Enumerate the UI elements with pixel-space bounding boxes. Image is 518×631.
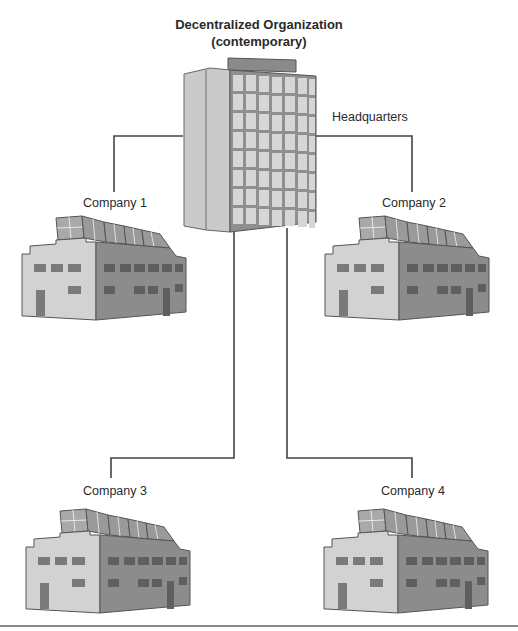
- bottom-divider: [0, 625, 518, 627]
- connector-hq-company1: [114, 136, 183, 192]
- factory-icon-company3: [26, 509, 190, 613]
- company-1-label: Company 1: [83, 196, 147, 210]
- company-2-label: Company 2: [382, 196, 446, 210]
- headquarters-label: Headquarters: [332, 110, 408, 124]
- office-tower-icon: [184, 58, 316, 232]
- factory-icon-company2: [325, 216, 489, 320]
- company-4-label: Company 4: [381, 484, 445, 498]
- factory-icon-company4: [324, 509, 488, 613]
- company-3-label: Company 3: [83, 484, 147, 498]
- factory-icon-company1: [22, 216, 186, 320]
- org-diagram: [0, 0, 518, 631]
